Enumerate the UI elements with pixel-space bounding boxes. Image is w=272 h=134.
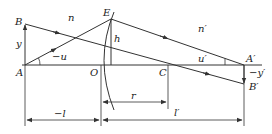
label-B-prime: B′ — [249, 82, 259, 92]
label-minus-y-prime: −y′ — [249, 68, 265, 78]
ray-E-A-prime — [111, 19, 244, 65]
label-minus-u: −u — [52, 52, 67, 62]
label-A: A — [16, 68, 23, 78]
label-B: B — [15, 17, 22, 27]
label-n-prime: n′ — [198, 24, 207, 34]
label-O: O — [90, 68, 98, 78]
label-r: r — [131, 91, 136, 101]
ray-A-E — [25, 19, 111, 65]
label-C: C — [159, 68, 167, 78]
label-E: E — [103, 8, 110, 18]
label-h: h — [114, 34, 120, 44]
label-minus-l: −l — [54, 109, 66, 119]
ray-arrow-B-prime — [203, 73, 210, 75]
label-l-prime: l′ — [174, 108, 179, 118]
ray-arrow-E-A-prime — [160, 36, 168, 39]
refraction-diagram: B n E n′ y h −u u′ A O C A′ −y′ B′ r −l … — [0, 0, 272, 134]
label-y: y — [16, 39, 22, 49]
label-A-prime: A′ — [246, 54, 256, 64]
diagram-svg — [0, 0, 272, 134]
ray-arrow-B — [53, 32, 60, 34]
label-n: n — [68, 13, 74, 23]
refracting-surface — [104, 12, 114, 110]
label-u-prime: u′ — [198, 54, 207, 64]
angle-arc-u — [39, 58, 41, 65]
